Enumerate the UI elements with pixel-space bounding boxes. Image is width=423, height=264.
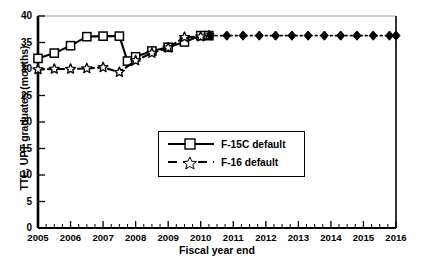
data-point-marker	[392, 31, 400, 40]
y-tick-label: 35	[6, 38, 32, 48]
data-point-marker	[369, 31, 377, 40]
legend-marker-open-square-icon	[167, 136, 215, 152]
data-point-marker	[114, 67, 124, 76]
data-point-marker	[50, 49, 58, 57]
data-point-marker	[33, 64, 43, 73]
data-point-marker	[320, 31, 328, 40]
data-point-marker	[115, 32, 123, 40]
data-point-marker	[337, 31, 345, 40]
data-point-marker	[304, 31, 312, 40]
y-tick-label: 30	[6, 64, 32, 74]
x-tick-label: 2016	[376, 233, 416, 243]
legend-entry-f15c: F-15C default	[167, 135, 286, 153]
data-point-marker	[34, 54, 42, 62]
data-point-marker	[239, 31, 247, 40]
legend: F-15C default F-16 default	[158, 131, 305, 177]
data-point-marker	[83, 33, 91, 41]
y-tick-label: 25	[6, 91, 32, 101]
data-point-marker	[255, 31, 263, 40]
data-point-marker	[82, 63, 92, 72]
legend-entry-f16: F-16 default	[167, 153, 278, 171]
data-point-marker	[288, 31, 296, 40]
data-point-marker	[99, 32, 107, 40]
data-point-marker	[66, 42, 74, 50]
data-point-marker	[66, 64, 76, 73]
legend-label-f15c: F-15C default	[221, 139, 286, 150]
legend-marker-open-star-icon	[167, 154, 215, 170]
data-point-marker	[272, 31, 280, 40]
y-tick-label: 5	[6, 197, 32, 207]
data-point-marker	[223, 31, 231, 40]
y-tick-label: 15	[6, 144, 32, 154]
chart-container: TTE, UPT graduates (months) Fiscal year …	[0, 0, 423, 264]
legend-label-f16: F-16 default	[221, 157, 278, 168]
y-tick-label: 40	[6, 11, 32, 21]
y-tick-label: 20	[6, 117, 32, 127]
data-point-marker	[353, 31, 361, 40]
data-point-marker	[98, 62, 108, 71]
y-tick-label: 10	[6, 170, 32, 180]
data-point-marker	[49, 64, 59, 73]
